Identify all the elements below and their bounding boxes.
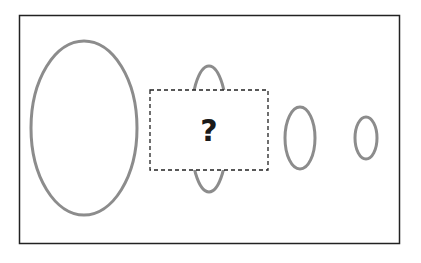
medium-ellipse (285, 107, 315, 169)
question-mark: ? (150, 90, 268, 170)
large-ellipse (31, 41, 137, 215)
small-ellipse (355, 117, 377, 159)
